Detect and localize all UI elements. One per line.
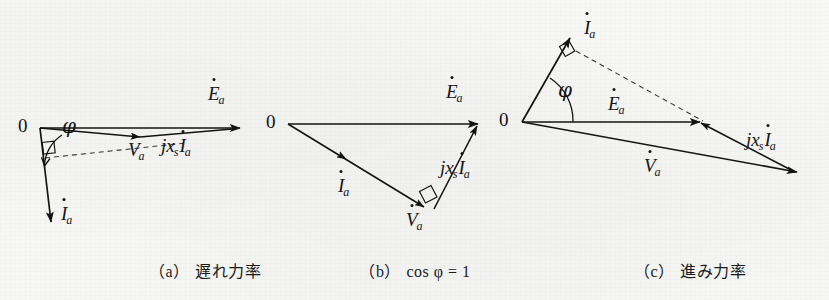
caption-panel-a: （a） 遅れ力率 — [110, 258, 300, 282]
label-Ea-a-sub: a — [219, 93, 225, 107]
caption-panel-b: （b） cos φ = 1 — [320, 258, 510, 282]
phasor-vector-canvas — [0, 0, 829, 300]
label-Ia-a: Ia — [61, 204, 73, 223]
caption-c-paren-close: ） — [658, 263, 675, 280]
label-Ea-b-base: E — [446, 82, 458, 101]
label-Va-b-base: V — [406, 210, 418, 229]
label-Va-b-sub: a — [417, 219, 423, 233]
label-jxsIa-a-sub: a — [185, 145, 191, 159]
panel-c-vectors — [522, 38, 797, 172]
label-Ea-b: Ea — [446, 82, 464, 101]
caption-c-text: 進み力率 — [680, 262, 746, 281]
label-Ia-c-sub: a — [589, 27, 595, 41]
label-Ea-a: Ea — [208, 84, 226, 103]
caption-b-paren-close: ） — [384, 263, 401, 280]
caption-panel-c: （c） 進み力率 — [595, 258, 785, 282]
label-Ia-b: Ia — [338, 176, 350, 195]
label-Ia-b-sub: a — [343, 185, 349, 199]
caption-b-formula: cos φ = 1 — [407, 263, 471, 280]
label-Ea-c: Ea — [608, 94, 626, 113]
label-jxsIa-c-sub: a — [770, 139, 776, 153]
angle-label-phi-a: φ — [62, 116, 76, 136]
label-Va-c-sub: a — [655, 165, 661, 179]
caption-c-paren-open: （ — [634, 263, 651, 280]
right-angle-mark-b — [420, 186, 438, 204]
caption-b-paren-open: （ — [359, 263, 376, 280]
phasor-figure: 0 φ Ea Va jxsIa Ia 0 Ea Ia Va jxsIa 0 φ … — [0, 0, 829, 300]
caption-a-letter: a — [165, 263, 173, 280]
label-Va-a-base: V — [128, 140, 140, 159]
vector-Va-a — [40, 128, 140, 137]
label-jxsIa-a-subs: s — [174, 145, 179, 159]
label-Va-a-sub: a — [139, 149, 145, 163]
label-jxsIa-b-subs: s — [453, 167, 458, 181]
label-Ea-a-base: E — [208, 84, 220, 103]
origin-label-a: 0 — [18, 116, 28, 135]
label-jxsIa-b: jxsIa — [440, 158, 471, 177]
caption-a-paren-open: （ — [149, 263, 166, 280]
label-jxsIa-c-subs: s — [759, 139, 764, 153]
caption-c-letter: c — [650, 263, 658, 280]
label-Ea-b-sub: a — [457, 91, 463, 105]
label-Va-c-base: V — [644, 156, 656, 175]
label-Va-a: Va — [128, 140, 146, 159]
dashed-construction-c — [576, 51, 703, 121]
label-Va-c: Va — [644, 156, 662, 175]
label-jxsIa-c: jxsIa — [746, 130, 777, 149]
label-Ea-c-base: E — [608, 94, 620, 113]
label-Ia-c: Ia — [584, 18, 596, 37]
label-jxsIa-a: jxsIa — [161, 136, 192, 155]
label-Ia-a-sub: a — [66, 213, 72, 227]
angle-label-phi-c: φ — [558, 80, 572, 100]
origin-label-b: 0 — [266, 112, 276, 131]
vector-Ia-b — [288, 124, 424, 207]
label-Ea-c-sub: a — [619, 103, 625, 117]
caption-a-paren-close: ） — [173, 263, 190, 280]
origin-label-c: 0 — [499, 110, 509, 129]
caption-a-text: 遅れ力率 — [195, 262, 261, 281]
label-Va-b: Va — [406, 210, 424, 229]
label-jxsIa-b-sub: a — [464, 167, 470, 181]
